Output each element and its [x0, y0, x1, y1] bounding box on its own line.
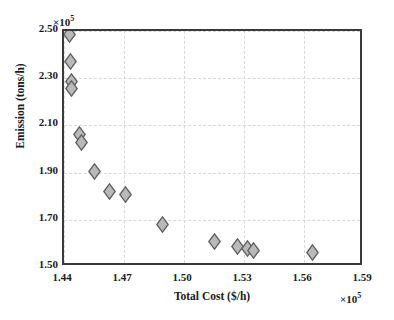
x-axis-multiplier-base: ×10	[340, 293, 357, 305]
data-point-marker	[156, 216, 169, 233]
x-axis-tick-label: 1.44	[32, 271, 92, 283]
data-point-marker	[75, 134, 88, 151]
x-axis-tick-label: 1.53	[212, 271, 272, 283]
x-axis-title: Total Cost ($/h)	[62, 290, 362, 302]
x-axis-tick-labels: 1.441.471.501.531.561.59	[62, 271, 362, 287]
plot-area	[62, 29, 362, 265]
y-axis-multiplier-exponent: 5	[70, 14, 74, 23]
data-point-marker	[88, 163, 101, 180]
emission-vs-cost-scatter-chart: ×105 2.502.302.101.901.701.50 1.441.471.…	[0, 0, 394, 320]
data-point-marker	[65, 80, 78, 97]
data-point-marker	[247, 242, 260, 259]
y-axis-title: Emission (tons/h)	[14, 36, 26, 176]
data-point-marker	[208, 233, 221, 250]
data-point-marker	[119, 186, 132, 203]
y-axis-tick-label: 1.70	[18, 212, 58, 223]
data-point-marker	[306, 244, 319, 261]
data-point-marker	[64, 31, 76, 43]
x-axis-tick-label: 1.47	[92, 271, 152, 283]
data-point-marker	[103, 183, 116, 200]
x-axis-multiplier: ×105	[340, 291, 361, 305]
x-axis-tick-label: 1.56	[272, 271, 332, 283]
data-points-layer	[64, 31, 360, 263]
x-axis-multiplier-exponent: 5	[357, 291, 361, 300]
y-axis-tick-label: 2.50	[18, 23, 58, 34]
x-axis-tick-label: 1.50	[152, 271, 212, 283]
y-axis-tick-label: 1.50	[18, 259, 58, 270]
x-axis-tick-label: 1.59	[332, 271, 392, 283]
data-point-marker	[64, 53, 77, 70]
